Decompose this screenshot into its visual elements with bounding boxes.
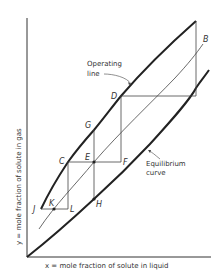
label-h: H [96,200,102,209]
equilibrium-label-1: Equilibrium [146,160,186,168]
operating-line-label-1: Operating [87,60,122,68]
staircase [41,21,196,209]
operating-line [41,21,196,209]
equilibrium-leader [149,151,160,159]
label-f: F [123,158,128,167]
label-b: B [203,35,209,44]
label-j: J [31,205,36,214]
label-e: E [85,153,91,162]
point-e-dot [92,160,95,163]
x-axis-label: x = mole fraction of solute in liquid [45,262,168,270]
label-c: C [59,157,65,166]
label-d: D [111,92,117,101]
operating-line-label-2: line [87,70,100,78]
operating-line-leader [104,74,131,84]
label-k: K [49,199,55,208]
diagram-canvas: B D G C E F H J K L Operating line Equil… [0,0,220,277]
label-g: G [85,121,91,130]
label-l: L [70,205,74,214]
equilibrium-label-2: curve [146,169,166,177]
y-axis-label: y = mole fraction of solute in gas [15,128,23,245]
